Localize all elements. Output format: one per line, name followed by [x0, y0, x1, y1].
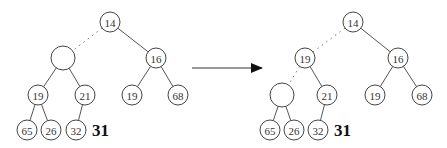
- heap-node: 19: [122, 85, 142, 105]
- heap-node: 32: [66, 120, 86, 140]
- node-label: 68: [173, 90, 185, 102]
- tree-edge: [320, 105, 324, 121]
- node-label: 19: [370, 90, 382, 102]
- tree-edge: [30, 105, 35, 121]
- node-label: 32: [313, 125, 324, 137]
- heap-node: 16: [388, 48, 408, 68]
- tree-edge: [361, 28, 390, 52]
- heap-node: 19: [365, 85, 385, 105]
- percolate-path-edge: [288, 66, 299, 84]
- tree-edge: [380, 66, 392, 86]
- tree-edge: [273, 106, 278, 120]
- heap-node: 26: [284, 120, 304, 140]
- heap-diagram: 14161921196865263231 1419162119686526323…: [0, 0, 447, 148]
- heap-node: 32: [308, 120, 328, 140]
- tree-edge: [403, 66, 416, 86]
- tree-edge: [161, 67, 173, 87]
- heap-node: 68: [412, 85, 432, 105]
- node-label: 16: [151, 53, 163, 65]
- heap-node: 65: [17, 120, 37, 140]
- node-label: 68: [417, 90, 429, 102]
- hole-node: [51, 46, 75, 70]
- tree-edge: [78, 105, 82, 121]
- tree-after: 14191621196865263231: [260, 12, 432, 140]
- tree-edge: [44, 68, 57, 87]
- node-label: 32: [71, 125, 82, 137]
- tree-edge: [137, 66, 150, 86]
- pending-insert-value: 31: [92, 121, 109, 140]
- pending-insert-value: 31: [334, 121, 351, 140]
- heap-node: 14: [343, 12, 363, 32]
- node-label: 19: [300, 53, 312, 65]
- node-label: 14: [348, 17, 360, 29]
- node-label: 19: [33, 90, 45, 102]
- node-label: 65: [265, 125, 277, 137]
- heap-node: 21: [317, 85, 337, 105]
- percolate-path-edge: [313, 28, 345, 52]
- heap-node: 16: [146, 48, 166, 68]
- heap-node: 65: [260, 120, 280, 140]
- node-label: 21: [80, 90, 91, 102]
- tree-edge: [286, 106, 291, 120]
- heap-node: 19: [295, 48, 315, 68]
- tree-before: 14161921196865263231: [17, 12, 188, 140]
- heap-node: 21: [75, 85, 95, 105]
- heap-node: 26: [41, 120, 61, 140]
- tree-edge: [69, 68, 80, 86]
- node-label: 26: [46, 125, 58, 137]
- node-label: 26: [289, 125, 301, 137]
- node-label: 21: [322, 90, 333, 102]
- percolate-path-edge: [73, 28, 103, 51]
- heap-node: 68: [168, 85, 188, 105]
- node-label: 65: [22, 125, 34, 137]
- tree-edge: [118, 28, 148, 52]
- node-label: 14: [105, 17, 117, 29]
- heap-node: 14: [100, 12, 120, 32]
- heap-node: 19: [28, 85, 48, 105]
- hole-node: [270, 83, 294, 107]
- tree-edge: [310, 67, 322, 87]
- node-label: 16: [393, 53, 405, 65]
- tree-edge: [41, 104, 47, 120]
- node-label: 19: [127, 90, 139, 102]
